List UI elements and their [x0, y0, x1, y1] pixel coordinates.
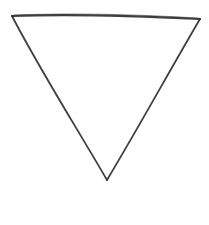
drawing-canvas — [0, 0, 209, 225]
background — [0, 0, 209, 225]
